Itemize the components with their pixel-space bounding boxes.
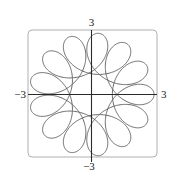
y-max-label: 3 bbox=[89, 16, 95, 28]
y-min-label: −3 bbox=[83, 160, 95, 172]
x-max-label: 3 bbox=[161, 88, 167, 100]
x-min-label: −3 bbox=[14, 88, 26, 100]
parametric-plot: 3 −3 −3 3 bbox=[0, 0, 176, 174]
